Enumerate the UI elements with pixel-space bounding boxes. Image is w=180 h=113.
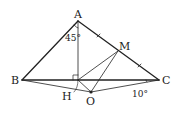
label-b: B: [11, 74, 19, 87]
angle-label-10: 10°: [132, 89, 148, 99]
geometry-diagram: A B C M H O 45° 10°: [0, 0, 180, 113]
label-c: C: [162, 74, 170, 87]
angle-label-45: 45°: [65, 33, 81, 43]
h-leader: [74, 80, 78, 92]
point-o: [89, 90, 92, 93]
label-o: O: [86, 95, 95, 108]
label-a: A: [73, 8, 83, 21]
angle-arc-a: [74, 25, 78, 28]
segment-mo: [91, 51, 118, 92]
label-h: H: [62, 90, 72, 103]
right-angle-mark: [73, 75, 78, 80]
label-m: M: [119, 40, 130, 53]
segment-hm: [78, 51, 118, 80]
segment-bo: [22, 80, 91, 92]
segment-oc: [91, 80, 159, 92]
segment-ab: [22, 21, 78, 80]
